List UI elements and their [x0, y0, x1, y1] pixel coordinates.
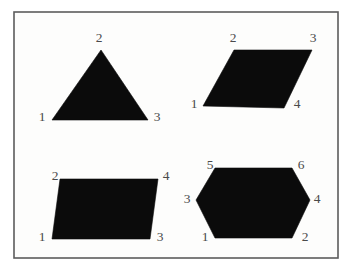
shape-hexagon: [196, 168, 310, 238]
shape-parallelogram: [52, 179, 158, 239]
triangle-vertex-label-1: 1: [39, 110, 46, 124]
bowtie-vertex-label-4: 4: [294, 97, 301, 111]
parallelogram-vertex-label-3: 3: [157, 230, 164, 244]
hexagon-vertex-label-3: 3: [184, 192, 191, 206]
hexagon-vertex-label-1: 1: [202, 230, 209, 244]
hexagon-vertex-label-5: 5: [207, 158, 214, 172]
hexagon-vertex-label-4: 4: [314, 192, 321, 206]
bowtie-vertex-label-2: 2: [230, 31, 237, 45]
triangle-vertex-label-2: 2: [96, 31, 103, 45]
parallelogram-vertex-label-1: 1: [39, 230, 46, 244]
bowtie-vertex-label-1: 1: [191, 97, 198, 111]
bowtie-vertex-label-3: 3: [310, 31, 317, 45]
hexagon-vertex-label-6: 6: [298, 158, 305, 172]
hexagon-vertex-label-2: 2: [302, 230, 309, 244]
figure-root: 1 2 3 1 2 3 4 1 2 3 4 1 2 3 4 5 6: [0, 0, 353, 273]
figure-canvas: [0, 0, 353, 273]
parallelogram-vertex-label-4: 4: [163, 169, 170, 183]
parallelogram-vertex-label-2: 2: [52, 169, 59, 183]
triangle-vertex-label-3: 3: [154, 110, 161, 124]
